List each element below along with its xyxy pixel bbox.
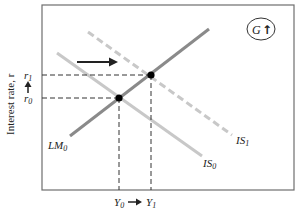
is1-label: IS1	[235, 134, 249, 148]
y0-label: Y0	[114, 196, 124, 210]
is1-curve	[88, 32, 232, 135]
lm0-label: LM0	[47, 139, 67, 153]
y-axis-title: Interest rate, r	[4, 73, 16, 135]
equilibrium-point-1	[147, 71, 154, 78]
y1-label: Y1	[146, 196, 156, 210]
government-spending-badge: G ↑	[247, 18, 275, 40]
r0-label: r0	[24, 92, 32, 106]
is0-curve	[57, 53, 202, 156]
lm0-curve	[70, 29, 209, 136]
is0-label: IS0	[202, 157, 216, 171]
r1-label: r1	[24, 69, 32, 83]
badge-g-label: G	[252, 23, 261, 37]
equilibrium-point-0	[115, 94, 122, 101]
output-increase-arrow-icon	[128, 199, 142, 206]
islm-diagram: G ↑ Interest rate, r r1 r0 Y0 Y1 LM0 IS0…	[0, 0, 298, 212]
shift-arrow-icon	[77, 58, 118, 67]
up-arrow-icon: ↑	[262, 23, 272, 37]
